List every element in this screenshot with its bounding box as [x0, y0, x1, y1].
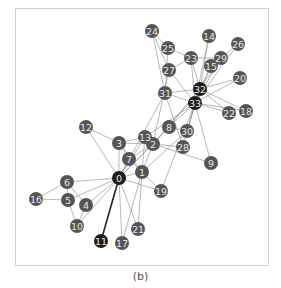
node-28: 28 [176, 140, 190, 154]
node-6: 6 [60, 175, 74, 189]
node-31: 31 [158, 86, 172, 100]
node-layer: 0123456789101112131415161718192021222324… [29, 24, 253, 250]
edge-28-31 [165, 93, 183, 147]
edge-1-21 [138, 172, 142, 229]
node-9: 9 [204, 156, 218, 170]
node-label: 4 [83, 200, 89, 211]
node-8: 8 [162, 120, 176, 134]
node-26: 26 [231, 37, 245, 51]
node-label: 14 [203, 31, 215, 42]
node-label: 29 [215, 53, 227, 64]
node-label: 32 [194, 84, 206, 95]
node-label: 1 [139, 167, 145, 178]
node-label: 16 [30, 194, 42, 205]
node-label: 3 [116, 138, 122, 149]
node-label: 9 [208, 158, 214, 169]
node-label: 7 [126, 154, 132, 165]
node-label: 22 [223, 108, 235, 119]
node-11: 11 [94, 234, 108, 248]
node-3: 3 [112, 136, 126, 150]
node-30: 30 [180, 124, 194, 138]
node-19: 19 [154, 184, 168, 198]
node-label: 28 [177, 142, 189, 153]
node-24: 24 [145, 24, 159, 38]
node-label: 8 [166, 122, 172, 133]
node-7: 7 [122, 152, 136, 166]
node-label: 12 [80, 122, 92, 133]
node-label: 23 [185, 53, 197, 64]
node-label: 26 [232, 39, 244, 50]
node-23: 23 [184, 51, 198, 65]
node-0: 0 [112, 171, 126, 185]
node-4: 4 [79, 198, 93, 212]
node-12: 12 [79, 120, 93, 134]
node-label: 5 [65, 195, 71, 206]
edge-0-21 [119, 178, 138, 229]
node-22: 22 [222, 106, 236, 120]
node-label: 10 [71, 221, 83, 232]
edge-9-33 [195, 103, 211, 163]
node-25: 25 [161, 41, 175, 55]
node-1: 1 [135, 165, 149, 179]
node-label: 24 [146, 26, 158, 37]
node-17: 17 [115, 236, 129, 250]
edge-0-17 [119, 178, 122, 243]
figure-caption: (b) [0, 270, 281, 283]
node-32: 32 [193, 82, 207, 96]
node-label: 13 [139, 132, 151, 143]
node-label: 19 [155, 186, 167, 197]
node-18: 18 [239, 104, 253, 118]
node-20: 20 [233, 71, 247, 85]
edge-24-31 [152, 31, 165, 93]
node-label: 0 [116, 173, 122, 184]
node-21: 21 [131, 222, 145, 236]
node-label: 11 [95, 236, 107, 247]
node-27: 27 [162, 63, 176, 77]
network-graph: 0123456789101112131415161718192021222324… [0, 0, 281, 288]
node-10: 10 [70, 219, 84, 233]
node-label: 17 [116, 238, 128, 249]
node-label: 31 [159, 88, 171, 99]
node-33: 33 [188, 96, 202, 110]
node-label: 6 [64, 177, 70, 188]
node-label: 18 [240, 106, 252, 117]
node-29: 29 [214, 51, 228, 65]
node-label: 20 [234, 73, 246, 84]
node-14: 14 [202, 29, 216, 43]
node-13: 13 [138, 130, 152, 144]
edge-0-11 [101, 178, 119, 241]
node-label: 30 [181, 126, 193, 137]
node-label: 21 [132, 224, 144, 235]
node-5: 5 [61, 193, 75, 207]
node-label: 25 [162, 43, 174, 54]
node-label: 27 [163, 65, 175, 76]
node-label: 33 [189, 98, 201, 109]
node-16: 16 [29, 192, 43, 206]
